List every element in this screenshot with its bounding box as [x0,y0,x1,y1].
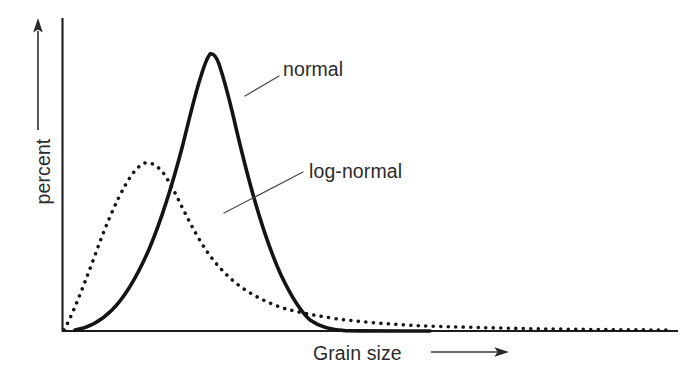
lognormal-label-leader-line [224,172,303,213]
normal-distribution-curve [75,54,430,331]
series-label-lognormal: log-normal [309,160,402,183]
lognormal-distribution-curve [64,163,668,330]
y-axis-direction-arrow [33,18,43,130]
up-arrow-icon [33,18,43,33]
normal-label-leader-line [245,76,279,96]
y-axis-title: percent [32,127,55,217]
grain-size-distribution-figure: normal log-normal Grain size percent [0,0,685,382]
series-label-normal: normal [283,58,343,81]
x-axis-title: Grain size [313,342,402,365]
x-axis-direction-arrow [431,347,509,357]
